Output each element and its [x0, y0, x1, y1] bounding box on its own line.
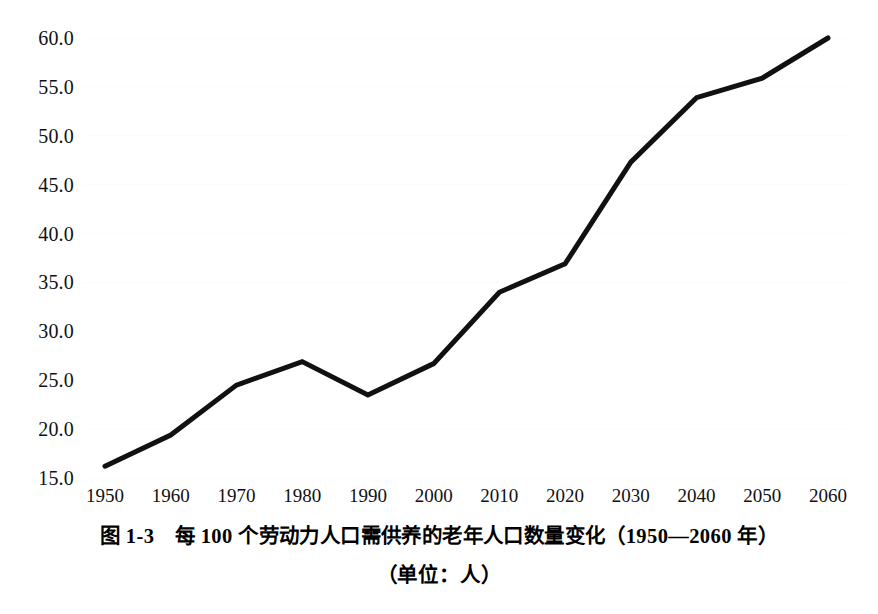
y-axis-tick-label: 30.0 [12, 321, 74, 341]
y-axis-tick-label: 20.0 [12, 419, 74, 439]
y-axis-tick-label: 40.0 [12, 224, 74, 244]
x-axis-tick-label: 2060 [788, 485, 868, 507]
y-axis-tick-label: 50.0 [12, 126, 74, 146]
figure-unit-note: （单位：人） [0, 560, 878, 590]
data-series-line [105, 38, 828, 466]
y-axis-tick-label: 55.0 [12, 77, 74, 97]
y-axis-tick-label: 45.0 [12, 175, 74, 195]
figure-caption: 图 1-3 每 100 个劳动力人口需供养的老年人口数量变化（1950—2060… [0, 521, 878, 551]
y-axis-tick-labels: 15.020.025.030.035.040.045.050.055.060.0 [8, 0, 74, 500]
chart-plot-area: 15.020.025.030.035.040.045.050.055.060.0 [0, 0, 878, 500]
caption-block: 图 1-3 每 100 个劳动力人口需供养的老年人口数量变化（1950—2060… [0, 521, 878, 590]
y-axis-tick-label: 60.0 [12, 28, 74, 48]
y-axis-tick-label: 25.0 [12, 370, 74, 390]
y-axis-tick-label: 35.0 [12, 272, 74, 292]
line-chart-svg [0, 0, 878, 500]
x-axis-tick-labels: 1950196019701980199020002010202020302040… [0, 485, 878, 515]
figure-container: 15.020.025.030.035.040.045.050.055.060.0… [0, 0, 878, 614]
